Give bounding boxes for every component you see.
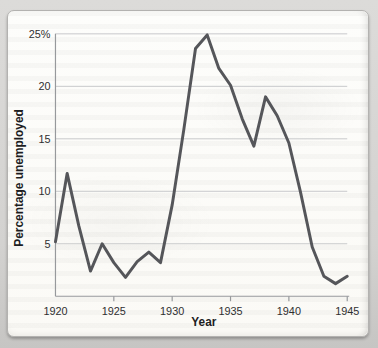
x-axis-title: Year xyxy=(191,315,216,329)
y-tick-label: 25% xyxy=(29,28,51,40)
y-tick-label: 15 xyxy=(38,133,50,145)
x-tick-label: 1920 xyxy=(43,305,67,317)
unemployment-series-line xyxy=(55,35,347,284)
x-tick-label: 1925 xyxy=(102,305,126,317)
plot-layer: 510152025%192019251930193519401945 xyxy=(29,28,360,317)
y-tick-label: 20 xyxy=(38,80,50,92)
y-tick-label: 5 xyxy=(44,238,50,250)
y-tick-label: 10 xyxy=(38,185,50,197)
x-tick-label: 1935 xyxy=(218,305,242,317)
chart-card: 510152025%192019251930193519401945 Perce… xyxy=(7,10,369,337)
x-tick-label: 1930 xyxy=(160,305,184,317)
unemployment-line-chart: 510152025%192019251930193519401945 Perce… xyxy=(8,11,368,336)
y-axis-title: Percentage unemployed xyxy=(12,109,26,247)
x-tick-label: 1945 xyxy=(335,305,359,317)
x-tick-label: 1940 xyxy=(277,305,301,317)
